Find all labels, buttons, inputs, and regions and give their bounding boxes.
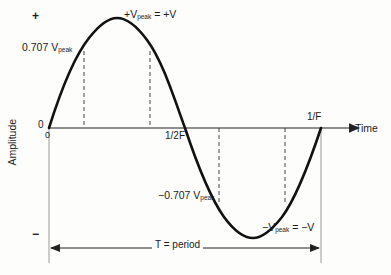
sine-wave-figure: + − Amplitude Time 0 0 1/2F 1/F +Vpeak =…	[0, 0, 391, 275]
origin-tick-label: 0	[38, 120, 44, 130]
negative-rms-annotation: −0.707 Vpeak	[158, 190, 214, 202]
positive-peak-annotation: +Vpeak = +V	[124, 9, 176, 21]
negative-peak-suffix: = −V	[289, 221, 314, 233]
negative-polarity-sign: −	[32, 228, 39, 240]
period-label: T = period	[152, 240, 203, 250]
half-period-tick-label: 1/2F	[165, 131, 185, 141]
positive-rms-subscript: peak	[58, 46, 72, 53]
period-arrow-right-head	[310, 244, 320, 252]
positive-polarity-sign: +	[32, 10, 39, 22]
positive-peak-prefix: +V	[124, 8, 137, 20]
full-period-tick-label: 1/F	[307, 112, 321, 122]
y-axis-label: Amplitude	[7, 112, 18, 172]
x-axis-label: Time	[355, 123, 378, 134]
negative-peak-subscript: peak	[275, 226, 289, 233]
positive-peak-suffix: = +V	[151, 8, 176, 20]
origin-tick-label-below: 0	[45, 131, 50, 140]
negative-rms-subscript: peak	[200, 194, 214, 201]
negative-peak-prefix: −V	[262, 221, 275, 233]
period-arrow-left-head	[50, 244, 60, 252]
negative-rms-prefix: −0.707 V	[158, 189, 200, 201]
positive-rms-annotation: 0.707 Vpeak	[22, 42, 72, 54]
positive-rms-prefix: 0.707 V	[22, 41, 58, 53]
positive-peak-subscript: peak	[137, 13, 151, 20]
negative-peak-annotation: −Vpeak = −V	[262, 222, 314, 234]
